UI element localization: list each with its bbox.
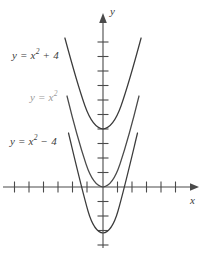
x-axis-arrow-icon — [190, 183, 199, 191]
label-y-equals-x-squared: y = x2 — [30, 91, 58, 103]
label-y-equals-x-squared-minus-4: y = x2 − 4 — [10, 135, 57, 147]
coordinate-plane — [0, 0, 205, 255]
y-axis-arrow-icon — [99, 13, 107, 23]
label-plus4-rhs: + 4 — [40, 49, 59, 61]
parabola-translation-figure: y = x2 + 4 y = x2 y = x2 − 4 y x — [0, 0, 205, 255]
label-minus4-lhs: y = x — [10, 135, 34, 147]
label-base-lhs: y = x — [30, 91, 54, 103]
x-axis-label: x — [190, 194, 195, 206]
label-plus4-lhs: y = x — [12, 49, 36, 61]
label-y-equals-x-squared-plus-4: y = x2 + 4 — [12, 49, 59, 61]
y-axis-label: y — [110, 5, 115, 17]
label-minus4-rhs: − 4 — [38, 135, 57, 147]
label-base-exponent: 2 — [54, 89, 58, 98]
